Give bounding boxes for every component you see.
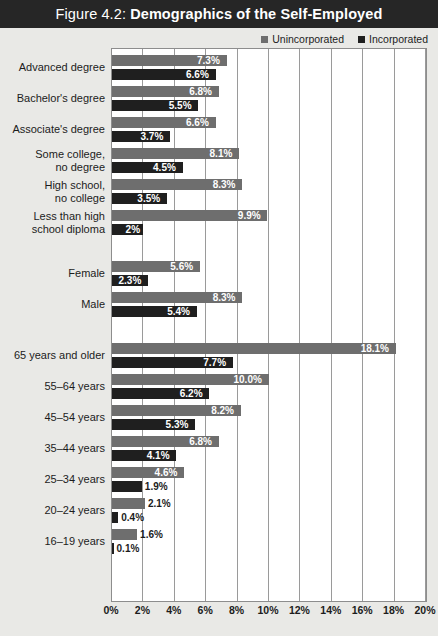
bar-value-label: 2.1% — [148, 498, 171, 509]
bar-group: 18.1%7.7% — [112, 343, 426, 368]
bar-fill — [112, 512, 118, 523]
bar-value-label: 10.0% — [234, 374, 262, 385]
chart-row: High school, no college8.3%3.5% — [0, 179, 438, 204]
bar-value-label: 9.9% — [238, 210, 261, 221]
bar-incorporated: 1.9% — [112, 481, 426, 492]
chart-row: 55–64 years10.0%6.2% — [0, 374, 438, 399]
bar-incorporated: 4.5% — [112, 162, 426, 173]
bar-value-label: 6.2% — [180, 388, 203, 399]
figure-title-text: Demographics of the Self-Employed — [130, 6, 382, 22]
bar-group: 6.8%4.1% — [112, 436, 426, 461]
bar-group: 7.3%6.6% — [112, 55, 426, 80]
bar-unincorporated: 10.0% — [112, 374, 426, 385]
x-axis-tick-label: 8% — [229, 604, 244, 616]
bar-value-label: 4.6% — [155, 467, 178, 478]
x-axis-tick-label: 2% — [135, 604, 150, 616]
bar-value-label: 6.8% — [189, 86, 212, 97]
chart-row: Less than high school diploma9.9%2% — [0, 210, 438, 235]
bar-group: 6.6%3.7% — [112, 117, 426, 142]
bar-group: 8.3%5.4% — [112, 292, 426, 317]
category-label: 35–44 years — [0, 442, 105, 455]
chart-row: 65 years and older18.1%7.7% — [0, 343, 438, 368]
figure-title-bar: Figure 4.2: Demographics of the Self-Emp… — [0, 0, 438, 28]
bar-incorporated: 0.1% — [112, 543, 426, 554]
bar-unincorporated: 7.3% — [112, 55, 426, 66]
bar-incorporated: 5.3% — [112, 419, 426, 430]
bar-unincorporated: 9.9% — [112, 210, 426, 221]
bar-group: 6.8%5.5% — [112, 86, 426, 111]
bar-unincorporated: 8.3% — [112, 292, 426, 303]
bar-unincorporated: 4.6% — [112, 467, 426, 478]
bar-incorporated: 5.5% — [112, 100, 426, 111]
bar-value-label: 4.1% — [147, 450, 170, 461]
chart-row: Male8.3%5.4% — [0, 292, 438, 317]
x-axis: 0%2%4%6%8%10%12%14%16%18%20% — [111, 604, 425, 624]
category-label: 20–24 years — [0, 504, 105, 517]
bar-group: 8.3%3.5% — [112, 179, 426, 204]
bar-group: 8.2%5.3% — [112, 405, 426, 430]
x-axis-tick-label: 18% — [383, 604, 404, 616]
bar-group: 10.0%6.2% — [112, 374, 426, 399]
bar-unincorporated: 6.8% — [112, 86, 426, 97]
chart-row: 45–54 years8.2%5.3% — [0, 405, 438, 430]
bar-group: 8.1%4.5% — [112, 148, 426, 173]
bar-incorporated: 4.1% — [112, 450, 426, 461]
bar-value-label: 2% — [126, 224, 140, 235]
x-axis-tick-label: 0% — [103, 604, 118, 616]
bar-value-label: 6.8% — [189, 436, 212, 447]
bar-value-label: 18.1% — [361, 343, 389, 354]
bar-fill — [112, 343, 396, 354]
bar-unincorporated: 8.1% — [112, 148, 426, 159]
legend-label: Incorporated — [369, 33, 428, 45]
bar-value-label: 8.3% — [213, 179, 236, 190]
bar-incorporated: 6.6% — [112, 69, 426, 80]
chart-legend: UnincorporatedIncorporated — [261, 33, 428, 45]
figure-number: Figure 4.2: — [56, 6, 131, 22]
bar-fill — [112, 529, 137, 540]
bar-incorporated: 6.2% — [112, 388, 426, 399]
bar-value-label: 6.6% — [186, 69, 209, 80]
bar-unincorporated: 6.8% — [112, 436, 426, 447]
bar-group: 9.9%2% — [112, 210, 426, 235]
x-axis-tick-label: 14% — [320, 604, 341, 616]
bar-value-label: 5.3% — [166, 419, 189, 430]
category-label: Bachelor's degree — [0, 92, 105, 105]
bar-unincorporated: 6.6% — [112, 117, 426, 128]
x-axis-tick-label: 16% — [352, 604, 373, 616]
bar-value-label: 3.7% — [140, 131, 163, 142]
chart-row: Bachelor's degree6.8%5.5% — [0, 86, 438, 111]
category-label: Some college, no degree — [0, 148, 105, 173]
bar-group: 4.6%1.9% — [112, 467, 426, 492]
legend-item-unincorporated: Unincorporated — [261, 33, 344, 45]
bar-group: 1.6%0.1% — [112, 529, 426, 554]
category-label: 55–64 years — [0, 380, 105, 393]
chart-row: 35–44 years6.8%4.1% — [0, 436, 438, 461]
bar-value-label: 7.3% — [197, 55, 220, 66]
x-axis-tick-label: 20% — [414, 604, 435, 616]
bar-incorporated: 2% — [112, 224, 426, 235]
page-title: Figure 4.2: Demographics of the Self-Emp… — [56, 6, 383, 22]
figure-container: Figure 4.2: Demographics of the Self-Emp… — [0, 0, 438, 636]
bar-value-label: 8.2% — [211, 405, 234, 416]
bar-value-label: 8.3% — [213, 292, 236, 303]
category-label: High school, no college — [0, 179, 105, 204]
bar-value-label: 6.6% — [186, 117, 209, 128]
category-label: Advanced degree — [0, 61, 105, 74]
bar-value-label: 5.6% — [170, 261, 193, 272]
chart-row: Associate's degree6.6%3.7% — [0, 117, 438, 142]
bar-value-label: 0.1% — [117, 543, 140, 554]
bar-value-label: 5.5% — [169, 100, 192, 111]
bar-incorporated: 5.4% — [112, 306, 426, 317]
bar-group: 2.1%0.4% — [112, 498, 426, 523]
bar-fill — [112, 481, 142, 492]
chart-row: 16–19 years1.6%0.1% — [0, 529, 438, 554]
bar-incorporated: 3.5% — [112, 193, 426, 204]
bar-unincorporated: 8.3% — [112, 179, 426, 190]
bar-unincorporated: 1.6% — [112, 529, 426, 540]
x-axis-tick-label: 12% — [289, 604, 310, 616]
legend-swatch-icon — [261, 36, 268, 43]
chart-row: 25–34 years4.6%1.9% — [0, 467, 438, 492]
bar-fill — [112, 498, 145, 509]
category-label: 16–19 years — [0, 535, 105, 548]
chart-row: Advanced degree7.3%6.6% — [0, 55, 438, 80]
